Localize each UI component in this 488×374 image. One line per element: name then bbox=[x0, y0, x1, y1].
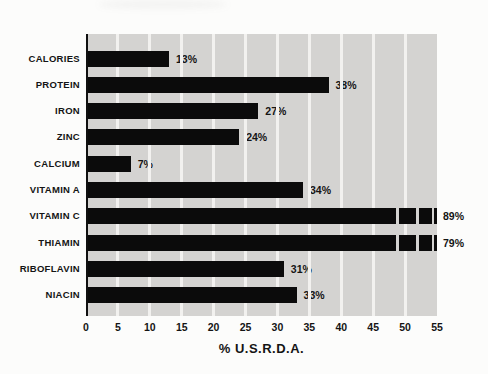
value-label: 13% bbox=[176, 51, 197, 67]
bar-overflow-broken bbox=[86, 235, 437, 251]
bar bbox=[86, 261, 284, 277]
bar bbox=[86, 129, 239, 145]
category-label: THIAMIN bbox=[0, 235, 80, 251]
gridline bbox=[372, 34, 375, 316]
gridline bbox=[340, 34, 343, 316]
category-label: RIBOFLAVIN bbox=[0, 261, 80, 277]
value-label: 34% bbox=[310, 182, 331, 198]
x-axis-title: % U.S.R.D.A. bbox=[86, 341, 437, 356]
category-label: CALORIES bbox=[0, 51, 80, 67]
x-tick-label: 30 bbox=[272, 321, 284, 333]
x-tick-label: 35 bbox=[304, 321, 316, 333]
bar bbox=[86, 156, 131, 172]
x-tick-label: 25 bbox=[240, 321, 252, 333]
value-label: 24% bbox=[246, 129, 267, 145]
x-tick-label: 50 bbox=[399, 321, 411, 333]
category-label: VITAMIN C bbox=[0, 208, 80, 224]
gridline bbox=[404, 34, 407, 316]
plot-area bbox=[86, 34, 437, 316]
bar bbox=[86, 103, 258, 119]
x-tick-label: 10 bbox=[144, 321, 156, 333]
category-label: IRON bbox=[0, 103, 80, 119]
bar-segment bbox=[434, 208, 437, 224]
print-artifact bbox=[98, 0, 228, 9]
x-tick-label: 5 bbox=[115, 321, 121, 333]
x-tick-label: 0 bbox=[83, 321, 89, 333]
bar-segment bbox=[399, 235, 416, 251]
bar bbox=[86, 287, 297, 303]
x-tick-label: 20 bbox=[208, 321, 220, 333]
value-label: 79% bbox=[443, 235, 464, 251]
category-label: NIACIN bbox=[0, 287, 80, 303]
category-label: ZINC bbox=[0, 129, 80, 145]
category-label: VITAMIN A bbox=[0, 182, 80, 198]
y-axis-line bbox=[86, 34, 88, 316]
category-label: PROTEIN bbox=[0, 77, 80, 93]
category-label: CALCIUM bbox=[0, 156, 80, 172]
bar-segment bbox=[434, 235, 437, 251]
bar bbox=[86, 77, 329, 93]
bar-segment bbox=[86, 208, 396, 224]
value-label: 89% bbox=[443, 208, 464, 224]
value-label: 33% bbox=[304, 287, 325, 303]
bar bbox=[86, 182, 303, 198]
bar-segment bbox=[419, 208, 432, 224]
bar-segment bbox=[86, 235, 396, 251]
chart-figure: % U.S.R.D.A. 0510152025303540455055CALOR… bbox=[0, 0, 488, 374]
bar-overflow-broken bbox=[86, 208, 437, 224]
x-tick-label: 45 bbox=[367, 321, 379, 333]
x-tick-label: 15 bbox=[176, 321, 188, 333]
bar-segment bbox=[399, 208, 416, 224]
x-tick-label: 55 bbox=[431, 321, 443, 333]
x-tick-label: 40 bbox=[335, 321, 347, 333]
bar-segment bbox=[419, 235, 432, 251]
bar bbox=[86, 51, 169, 67]
value-label: 38% bbox=[336, 77, 357, 93]
